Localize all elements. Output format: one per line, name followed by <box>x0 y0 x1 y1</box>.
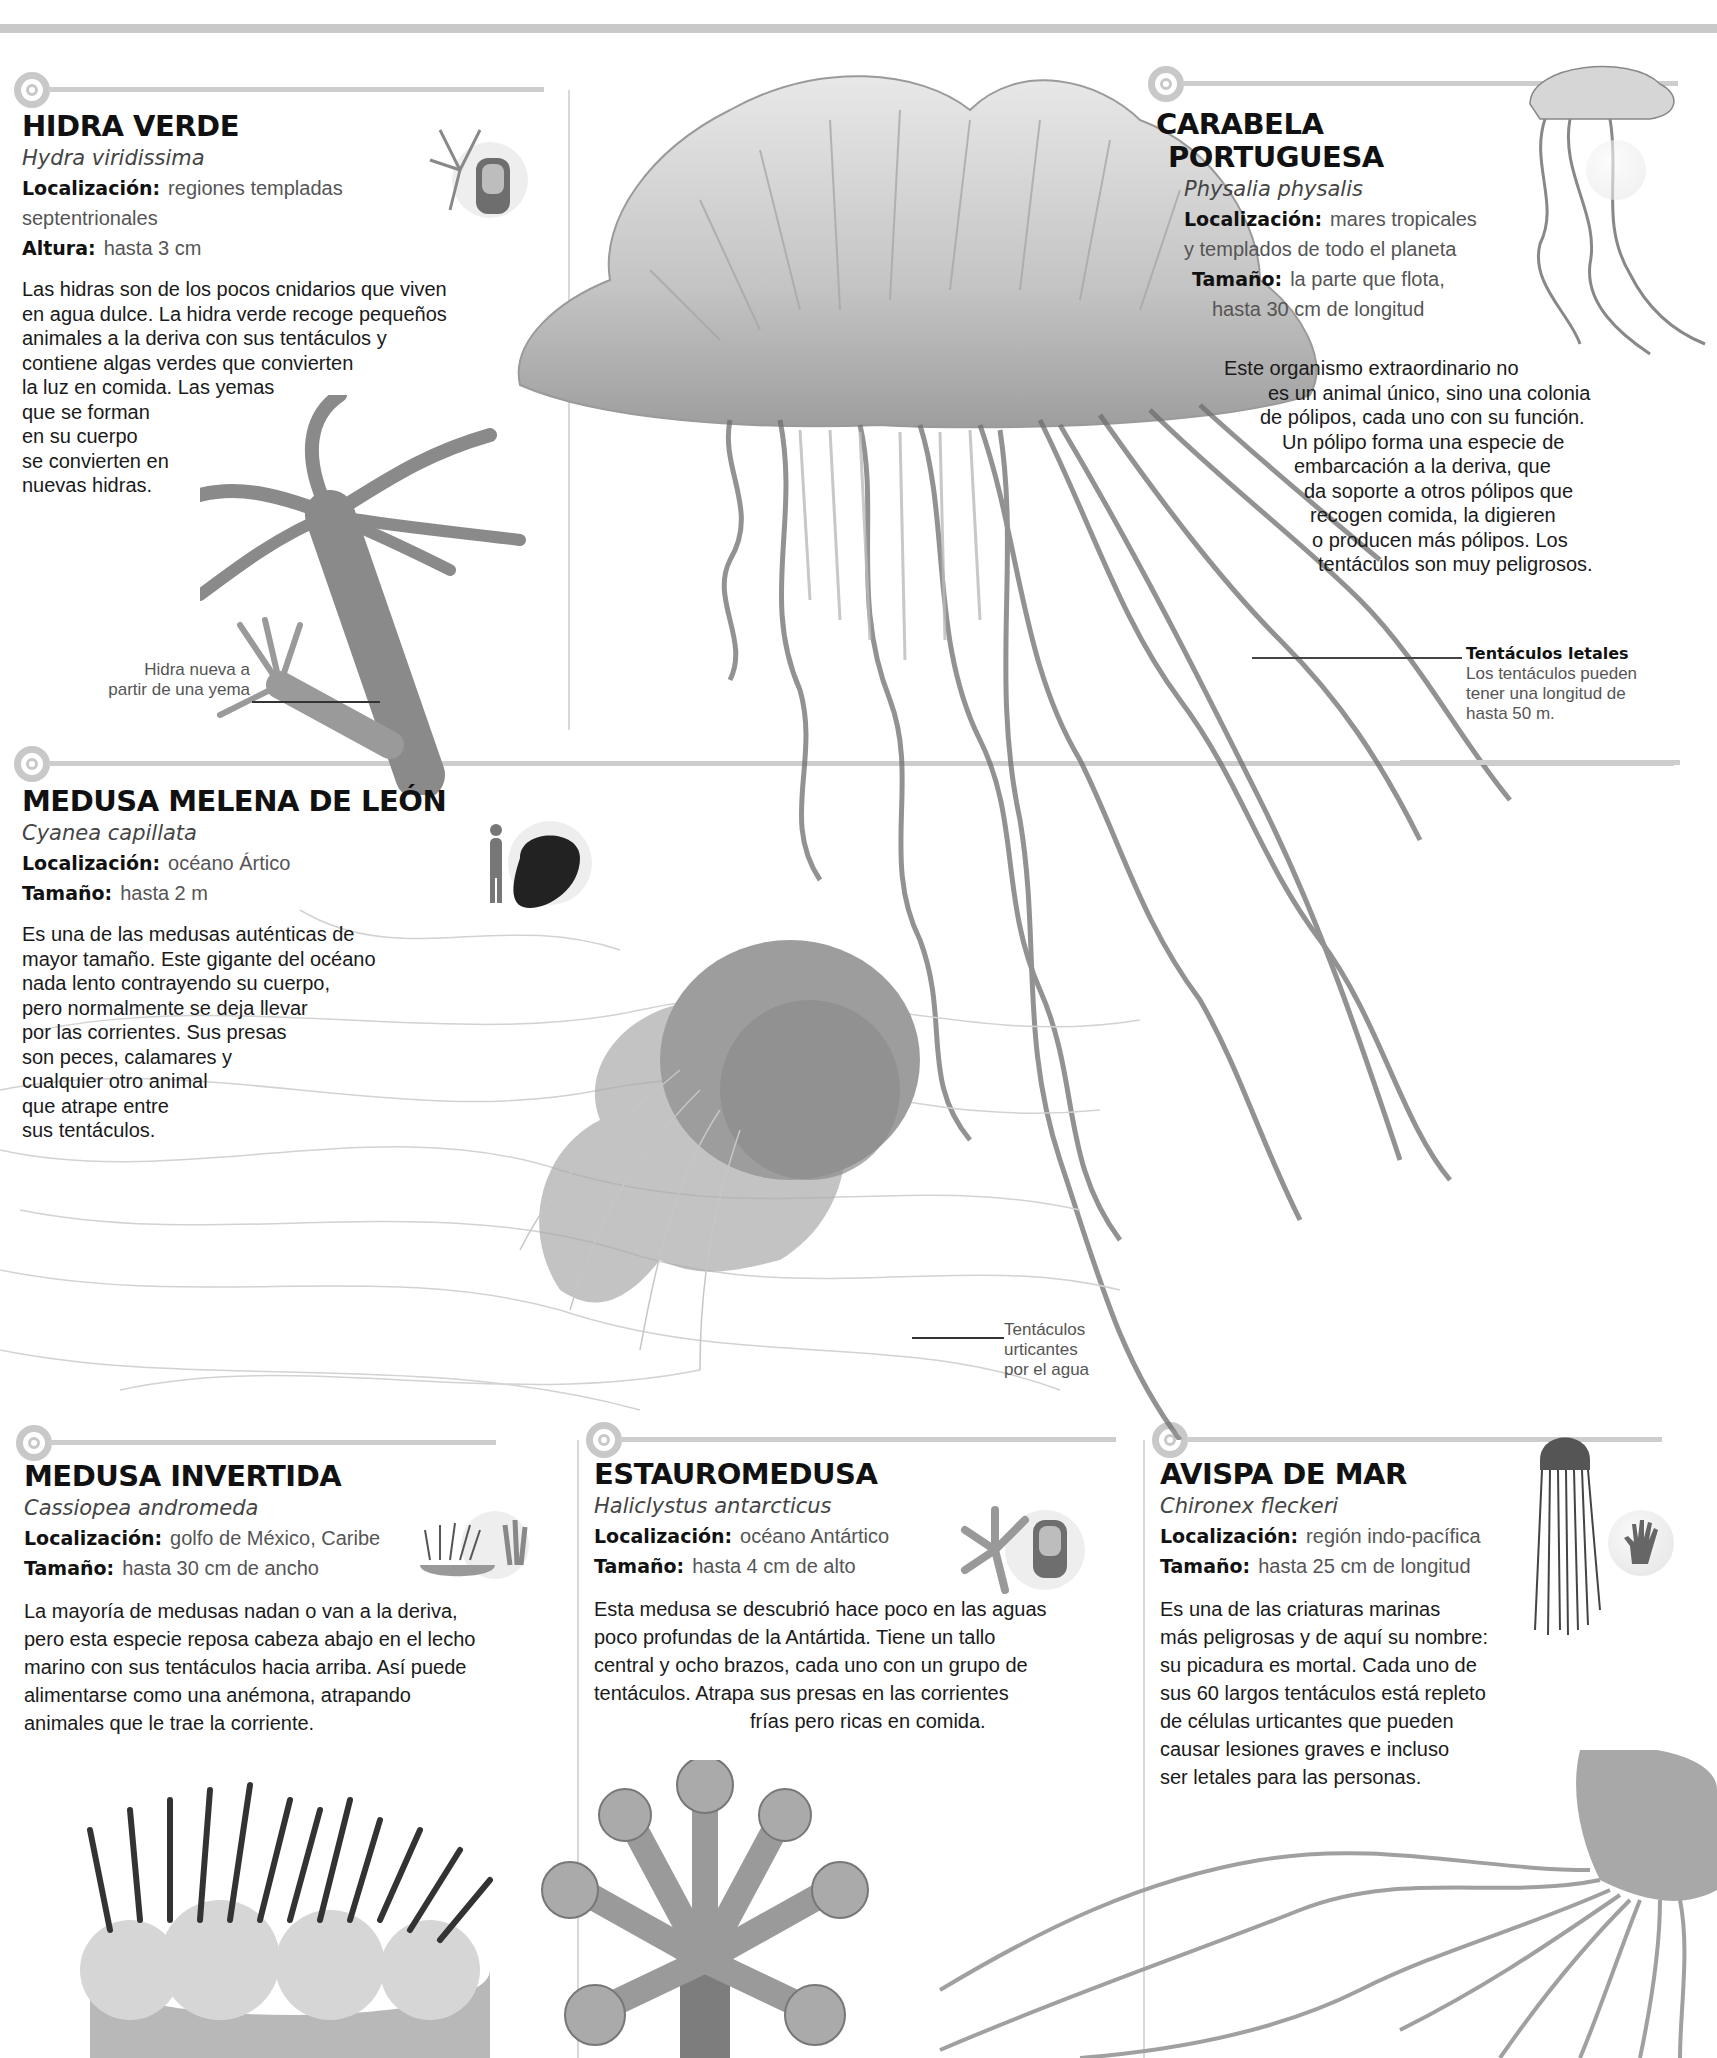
section-hidra-verde: HIDRA VERDE Hydra viridissima Localizaci… <box>22 110 542 498</box>
upside-down-jellyfish-illustration <box>50 1770 550 2058</box>
fact-size: Tamaño:hasta 2 m <box>22 878 562 908</box>
text-line: nada lento contrayendo su cuerpo, <box>22 971 562 996</box>
section-marker-hidra <box>14 72 544 108</box>
text-line: se convierten en <box>22 449 542 474</box>
text-line: o producen más pólipos. Los <box>1222 528 1702 553</box>
text-line: más peligrosas y de aquí su nombre: <box>1160 1623 1560 1651</box>
fact-key: Altura: <box>22 237 96 259</box>
callout-line: Hidra nueva a <box>144 660 250 679</box>
fact-key: Tamaño: <box>1192 268 1282 290</box>
fact-location: Localización:regiones templadas septentr… <box>22 173 542 233</box>
fact-value: hasta 30 cm de ancho <box>122 1557 319 1579</box>
species-title: AVISPA DE MAR <box>1160 1458 1560 1491</box>
species-title: HIDRA VERDE <box>22 110 542 143</box>
text-line: alimentarse como una anémona, atrapando <box>24 1681 574 1709</box>
fact-key: Localización: <box>1160 1525 1298 1547</box>
text-line: en su cuerpo <box>22 424 542 449</box>
hydra-bud-leader-line <box>252 701 380 703</box>
text-line: por las corrientes. Sus presas <box>22 1020 562 1045</box>
scientific-name: Chironex fleckeri <box>1160 1491 1560 1521</box>
fact-location: Localización:mares tropicales y templado… <box>1184 204 1716 264</box>
section-medusa-invertida: MEDUSA INVERTIDA Cassiopea andromeda Loc… <box>24 1460 574 1737</box>
callout-line: hasta 50 m. <box>1466 704 1555 723</box>
fact-size: Tamaño:hasta 30 cm de ancho <box>24 1553 574 1583</box>
callout-line: Tentáculos <box>1004 1320 1085 1339</box>
text-line: animales a la deriva con sus tentáculos … <box>22 326 542 351</box>
carabela-description: Este organismo extraordinario no es un a… <box>1222 356 1702 577</box>
description: La mayoría de medusas nadan o van a la d… <box>24 1597 574 1737</box>
lethal-tentacles-callout: Tentáculos letales Los tentáculos pueden… <box>1466 644 1706 724</box>
fact-value-cont: septentrionales <box>22 207 158 229</box>
box-jellyfish-illustration <box>880 1750 1717 2058</box>
text-line: pero esta especie reposa cabeza abajo en… <box>24 1625 574 1653</box>
text-line: causar lesiones graves e incluso <box>1160 1735 1560 1763</box>
section-medusa-melena-de-leon: MEDUSA MELENA DE LEÓN Cyanea capillata L… <box>22 785 562 1143</box>
text-line: animales que le trae la corriente. <box>24 1709 574 1737</box>
fact-value: hasta 4 cm de alto <box>692 1555 855 1577</box>
fact-location: Localización:región indo-pacífica <box>1160 1521 1560 1551</box>
fact-value: golfo de México, Caribe <box>170 1527 380 1549</box>
text-line: su picadura es mortal. Cada uno de <box>1160 1651 1560 1679</box>
text-line: Este organismo extraordinario no <box>1222 356 1702 381</box>
fact-key: Tamaño: <box>1160 1555 1250 1577</box>
text-line: Un pólipo forma una especie de <box>1222 430 1702 455</box>
text-line: de células urticantes que pueden <box>1160 1707 1560 1735</box>
callout-title: Tentáculos letales <box>1466 644 1706 664</box>
text-line: es un animal único, sino una colonia <box>1222 381 1702 406</box>
text-line: tentáculos. Atrapa sus presas en las cor… <box>594 1679 1134 1707</box>
fact-value: hasta 25 cm de longitud <box>1258 1555 1470 1577</box>
text-line: mayor tamaño. Este gigante del océano <box>22 947 562 972</box>
fact-key: Localización: <box>1184 208 1322 230</box>
hand-icon <box>1622 1520 1662 1564</box>
text-line: ser letales para las personas. <box>1160 1763 1560 1791</box>
text-line: Esta medusa se descubrió hace poco en la… <box>594 1595 1134 1623</box>
fact-value: hasta 3 cm <box>104 237 202 259</box>
section-rule <box>1400 760 1680 765</box>
fact-key: Localización: <box>22 852 160 874</box>
text-line: Es una de las medusas auténticas de <box>22 922 562 947</box>
callout-line: tener una longitud de <box>1466 684 1626 703</box>
top-divider-band <box>0 24 1717 33</box>
fact-value: la parte que flota, <box>1290 268 1445 290</box>
text-line: recogen comida, la digieren <box>1222 503 1702 528</box>
fact-key: Tamaño: <box>22 882 112 904</box>
text-line: marino con sus tentáculos hacia arriba. … <box>24 1653 574 1681</box>
description: Es una de las criaturas marinas más peli… <box>1160 1595 1560 1791</box>
fact-key: Localización: <box>22 177 160 199</box>
description: Esta medusa se descubrió hace poco en la… <box>594 1595 1134 1735</box>
species-title: MEDUSA INVERTIDA <box>24 1460 574 1493</box>
scientific-name: Physalia physalis <box>1184 174 1716 204</box>
text-line: sus 60 largos tentáculos está repleto <box>1160 1679 1560 1707</box>
fact-value: océano Antártico <box>740 1525 889 1547</box>
section-marker-invertida <box>16 1425 496 1461</box>
text-line: que atrape entre <box>22 1094 562 1119</box>
fact-value: regiones templadas <box>168 177 343 199</box>
text-line: son peces, calamares y <box>22 1045 562 1070</box>
fact-size: Tamaño:hasta 25 cm de longitud <box>1160 1551 1560 1581</box>
species-title: CARABELA <box>1156 108 1716 141</box>
fact-value-cont: y templados de todo el planeta <box>1184 238 1456 260</box>
callout-line: urticantes <box>1004 1340 1078 1359</box>
fact-value: mares tropicales <box>1330 208 1477 230</box>
fact-key: Localización: <box>24 1527 162 1549</box>
text-line: de pólipos, cada uno con su función. <box>1222 405 1702 430</box>
lions-mane-leader-line <box>912 1337 1004 1339</box>
fact-key: Tamaño: <box>24 1557 114 1579</box>
fact-location: Localización:océano Antártico <box>594 1521 1134 1551</box>
callout-line: Los tentáculos pueden <box>1466 664 1637 683</box>
text-line: en agua dulce. La hidra verde recoge peq… <box>22 302 542 327</box>
section-avispa-de-mar: AVISPA DE MAR Chironex fleckeri Localiza… <box>1160 1458 1560 1791</box>
text-line: pero normalmente se deja llevar <box>22 996 562 1021</box>
fact-value: región indo-pacífica <box>1306 1525 1481 1547</box>
species-title: MEDUSA MELENA DE LEÓN <box>22 785 562 818</box>
text-line: poco profundas de la Antártida. Tiene un… <box>594 1623 1134 1651</box>
scientific-name: Hydra viridissima <box>22 143 542 173</box>
fact-value: hasta 2 m <box>120 882 208 904</box>
scientific-name: Haliclystus antarcticus <box>594 1491 1134 1521</box>
text-line: cualquier otro animal <box>22 1069 562 1094</box>
fact-location: Localización:golfo de México, Caribe <box>24 1523 574 1553</box>
section-carabela-portuguesa: CARABELA PORTUGUESA Physalia physalis Lo… <box>1156 108 1716 324</box>
fact-height: Altura:hasta 3 cm <box>22 233 542 263</box>
text-line: da soporte a otros pólipos que <box>1222 479 1702 504</box>
fact-key: Tamaño: <box>594 1555 684 1577</box>
